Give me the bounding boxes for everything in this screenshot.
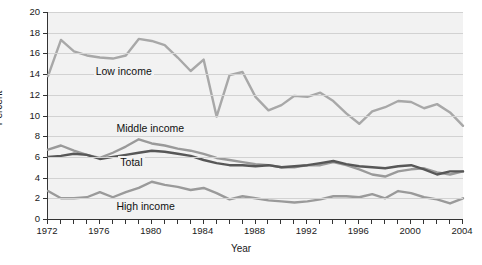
x-axis-tick-label: 1984: [192, 226, 213, 236]
series-line-high-income: [48, 182, 463, 204]
y-axis-title: Percent: [0, 91, 4, 125]
x-axis-title: Year: [0, 243, 482, 254]
y-axis-tick-label: 4: [20, 173, 40, 183]
series-label-middle-income: Middle income: [114, 122, 186, 134]
x-axis-tick-mark: [73, 219, 74, 224]
x-axis-tick-mark: [410, 219, 411, 224]
y-axis-tick-mark: [43, 33, 47, 34]
victimization-rate-line-chart: Percent 02468101214161820 19721976198019…: [0, 0, 482, 265]
x-axis-tick-mark: [306, 219, 307, 224]
gridline: [48, 178, 463, 179]
x-axis-tick-mark: [216, 219, 217, 224]
x-axis-tick-label: 1972: [36, 226, 57, 236]
x-axis-tick-label: 1976: [88, 226, 109, 236]
y-axis-tick-label: 2: [20, 194, 40, 204]
x-axis-tick-mark: [99, 219, 100, 224]
x-axis-tick-mark: [319, 219, 320, 224]
gridline: [48, 136, 463, 137]
gridline: [48, 157, 463, 158]
gridline: [48, 198, 463, 199]
y-axis-tick-label: 8: [20, 131, 40, 141]
y-axis-tick-label: 18: [20, 28, 40, 38]
plot-area: [47, 12, 463, 220]
gridline: [48, 95, 463, 96]
y-axis-tick-label: 10: [20, 111, 40, 121]
x-axis-tick-mark: [462, 219, 463, 224]
x-axis-tick-label: 2004: [451, 226, 472, 236]
y-axis-tick-mark: [43, 74, 47, 75]
gridline: [48, 116, 463, 117]
x-axis-tick-label: 1980: [140, 226, 161, 236]
y-axis-tick-mark: [43, 12, 47, 13]
y-axis-tick-label: 20: [20, 7, 40, 17]
x-axis-tick-mark: [449, 219, 450, 224]
x-axis-tick-mark: [423, 219, 424, 224]
x-axis-tick-mark: [397, 219, 398, 224]
x-axis-tick-mark: [384, 219, 385, 224]
x-axis-tick-mark: [190, 219, 191, 224]
x-axis-tick-label: 1988: [244, 226, 265, 236]
y-axis-tick-label: 6: [20, 152, 40, 162]
x-axis-tick-mark: [164, 219, 165, 224]
x-axis-tick-mark: [293, 219, 294, 224]
y-axis-tick-mark: [43, 178, 47, 179]
x-axis-tick-mark: [47, 219, 48, 224]
x-axis-tick-mark: [112, 219, 113, 224]
x-axis-tick-mark: [177, 219, 178, 224]
x-axis-tick-mark: [60, 219, 61, 224]
x-axis-tick-mark: [280, 219, 281, 224]
x-axis-tick-mark: [436, 219, 437, 224]
gridline: [48, 12, 463, 13]
x-axis-tick-label: 1996: [348, 226, 369, 236]
y-axis-tick-mark: [43, 95, 47, 96]
y-axis-tick-mark: [43, 116, 47, 117]
y-axis-tick-mark: [43, 53, 47, 54]
x-axis-tick-mark: [242, 219, 243, 224]
x-axis-tick-mark: [255, 219, 256, 224]
series-line-low-income: [48, 39, 463, 126]
x-axis-tick-mark: [332, 219, 333, 224]
series-label-high-income: High income: [114, 200, 176, 212]
y-axis-tick-label: 16: [20, 49, 40, 59]
x-axis-tick-label: 2000: [400, 226, 421, 236]
x-axis-tick-mark: [86, 219, 87, 224]
series-label-total: Total: [118, 156, 144, 168]
x-axis-tick-label: 1992: [296, 226, 317, 236]
x-axis-tick-mark: [358, 219, 359, 224]
series-label-low-income: Low income: [94, 65, 154, 77]
y-axis-tick-label: 12: [20, 90, 40, 100]
x-axis-tick-mark: [229, 219, 230, 224]
x-axis-tick-mark: [138, 219, 139, 224]
y-axis-tick-mark: [43, 136, 47, 137]
gridline: [48, 53, 463, 54]
y-axis-tick-mark: [43, 198, 47, 199]
x-axis-tick-mark: [125, 219, 126, 224]
x-axis-tick-mark: [267, 219, 268, 224]
y-axis-tick-label: 14: [20, 69, 40, 79]
y-axis-tick-mark: [43, 157, 47, 158]
x-axis-tick-mark: [371, 219, 372, 224]
x-axis-tick-mark: [345, 219, 346, 224]
y-axis-tick-label: 0: [20, 214, 40, 224]
gridline: [48, 33, 463, 34]
x-axis-tick-mark: [151, 219, 152, 224]
x-axis-tick-mark: [203, 219, 204, 224]
